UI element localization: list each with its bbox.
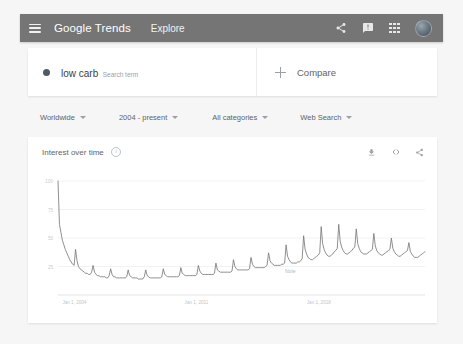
chevron-down-icon (346, 116, 352, 119)
chart-toolbar (366, 147, 425, 158)
search-term-entry[interactable]: low carb Search term (28, 63, 256, 81)
filter-search-type[interactable]: Web Search (300, 113, 352, 122)
y-axis-tick-label: 25 (48, 265, 54, 270)
apps-grid-icon[interactable] (388, 22, 401, 35)
google-trends-page: Google Trends Explore (0, 0, 463, 344)
hamburger-menu-icon[interactable] (29, 24, 41, 33)
info-icon[interactable]: i (111, 147, 122, 158)
filter-category-label: All categories (212, 113, 257, 122)
search-term-type: Search term (103, 71, 138, 78)
x-axis-tick-label: Jan 1, 2004 (62, 300, 86, 305)
chevron-down-icon (172, 116, 178, 119)
app-bar: Google Trends Explore (20, 14, 443, 42)
series-color-dot (43, 69, 50, 76)
filter-category[interactable]: All categories (212, 113, 268, 122)
search-term-card: low carb Search term Compare (28, 48, 437, 96)
filter-location[interactable]: Worldwide (40, 113, 86, 122)
trends-line-chart[interactable]: 100755025Jan 1, 2004Jan 1, 2011Jan 1, 20… (28, 167, 437, 323)
google-trends-logo[interactable]: Google Trends (54, 22, 131, 34)
brand-google: Google (54, 22, 92, 34)
search-term-name: low carb (61, 68, 98, 79)
y-axis-tick-label: 100 (45, 179, 53, 184)
x-axis-tick-label: Jan 1, 2011 (185, 300, 209, 305)
compare-button[interactable]: Compare (257, 67, 437, 78)
brand-trends: Trends (92, 22, 131, 34)
y-axis-tick-label: 75 (48, 208, 54, 213)
download-icon[interactable] (366, 147, 377, 158)
x-axis-tick-label: Jan 1, 2018 (307, 300, 331, 305)
compare-label: Compare (297, 67, 336, 78)
share-icon[interactable] (414, 147, 425, 158)
filter-search-type-label: Web Search (300, 113, 341, 122)
appbar-actions (334, 20, 432, 37)
nav-explore[interactable]: Explore (151, 23, 185, 34)
filter-location-label: Worldwide (40, 113, 75, 122)
chart-svg: 100755025Jan 1, 2004Jan 1, 2011Jan 1, 20… (28, 167, 437, 323)
chart-series-line (58, 181, 425, 279)
y-axis-tick-label: 50 (48, 236, 54, 241)
chevron-down-icon (262, 116, 268, 119)
interest-over-time-card: Interest over time i (28, 137, 437, 323)
chart-header: Interest over time i (28, 137, 437, 167)
embed-code-icon[interactable] (390, 147, 401, 158)
plus-icon (275, 67, 286, 78)
search-term-text: low carb Search term (61, 63, 138, 81)
filter-time-range-label: 2004 - present (119, 113, 167, 122)
chart-note-label: Note (285, 268, 296, 274)
filter-time-range[interactable]: 2004 - present (119, 113, 178, 122)
apps-grid-glyph (389, 23, 399, 33)
filter-bar: Worldwide 2004 - present All categories … (28, 104, 437, 130)
chart-title: Interest over time (42, 148, 104, 157)
user-avatar[interactable] (415, 20, 432, 37)
chevron-down-icon (80, 116, 86, 119)
feedback-icon[interactable] (361, 22, 374, 35)
share-icon[interactable] (334, 22, 347, 35)
